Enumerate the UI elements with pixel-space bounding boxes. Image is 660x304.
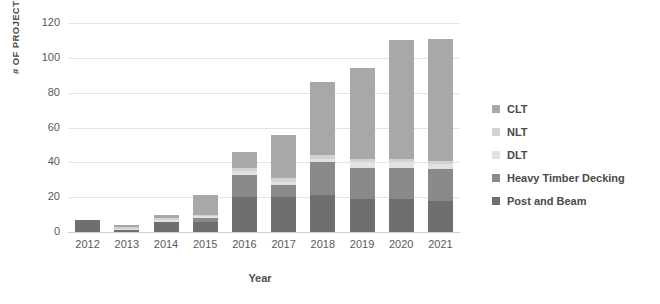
bar-group[interactable]: [107, 23, 146, 232]
legend-swatch-icon: [492, 105, 500, 113]
bar-segment-clt[interactable]: [428, 39, 453, 161]
bar-segment-heavy-timber-decking[interactable]: [428, 169, 453, 200]
bar-segment-clt[interactable]: [350, 68, 375, 159]
legend-swatch-icon: [492, 174, 500, 182]
bar-segment-post-and-beam[interactable]: [154, 222, 179, 232]
y-axis-tick-label: 60: [22, 121, 60, 133]
gridline: [68, 232, 460, 233]
bar-stack[interactable]: [232, 152, 257, 232]
x-axis-tick-label: 2014: [146, 238, 185, 250]
legend-item-nlt[interactable]: NLT: [492, 126, 625, 138]
bar-segment-clt[interactable]: [271, 135, 296, 179]
bar-segment-heavy-timber-decking[interactable]: [271, 185, 296, 197]
legend-item-heavy-timber-decking[interactable]: Heavy Timber Decking: [492, 172, 625, 184]
legend-swatch-icon: [492, 128, 500, 136]
x-axis-tick-label: 2016: [225, 238, 264, 250]
bar-group[interactable]: [382, 23, 421, 232]
bar-segment-post-and-beam[interactable]: [232, 197, 257, 232]
bar-stack[interactable]: [114, 225, 139, 232]
bar-stack[interactable]: [193, 195, 218, 232]
bar-stack[interactable]: [75, 220, 100, 232]
x-axis-tick-label: 2015: [186, 238, 225, 250]
x-axis-tick-label: 2013: [107, 238, 146, 250]
bar-group[interactable]: [146, 23, 185, 232]
bar-segment-clt[interactable]: [310, 82, 335, 155]
bar-segment-post-and-beam[interactable]: [75, 220, 100, 232]
bar-segment-clt[interactable]: [389, 40, 414, 158]
bar-segment-clt[interactable]: [232, 152, 257, 168]
bar-segment-post-and-beam[interactable]: [350, 199, 375, 232]
bar-segment-post-and-beam[interactable]: [428, 201, 453, 232]
bar-segment-post-and-beam[interactable]: [389, 199, 414, 232]
x-axis-title: Year: [60, 272, 460, 284]
bar-segment-heavy-timber-decking[interactable]: [350, 168, 375, 199]
bar-stack[interactable]: [350, 68, 375, 232]
legend-item-clt[interactable]: CLT: [492, 103, 625, 115]
y-axis-tick-label: 40: [22, 155, 60, 167]
legend-item-dlt[interactable]: DLT: [492, 149, 625, 161]
bar-stack[interactable]: [310, 82, 335, 232]
bar-stack[interactable]: [271, 135, 296, 232]
bar-segment-post-and-beam[interactable]: [114, 230, 139, 232]
y-axis-tick-label: 120: [22, 16, 60, 28]
bar-segment-heavy-timber-decking[interactable]: [389, 168, 414, 199]
bar-group[interactable]: [68, 23, 107, 232]
bar-series-container: [68, 23, 460, 232]
legend-swatch-icon: [492, 151, 500, 159]
bar-group[interactable]: [186, 23, 225, 232]
legend-item-label: NLT: [507, 126, 528, 138]
legend-item-label: Post and Beam: [507, 195, 586, 207]
y-axis-tick-label: 0: [22, 225, 60, 237]
bar-segment-post-and-beam[interactable]: [310, 195, 335, 232]
y-axis-title: # OF PROJECTS: [10, 0, 21, 94]
plot-area: 020406080100120: [68, 23, 460, 232]
y-axis-tick-label: 20: [22, 190, 60, 202]
stacked-bar-chart: # OF PROJECTS 020406080100120 2012201320…: [0, 0, 660, 304]
legend-item-label: CLT: [507, 103, 528, 115]
legend-swatch-icon: [492, 197, 500, 205]
y-axis-tick-label: 80: [22, 86, 60, 98]
x-axis-tick-label: 2012: [68, 238, 107, 250]
bar-stack[interactable]: [154, 215, 179, 232]
bar-group[interactable]: [303, 23, 342, 232]
bar-segment-clt[interactable]: [193, 195, 218, 214]
bar-segment-heavy-timber-decking[interactable]: [310, 162, 335, 195]
x-axis-tick-label: 2020: [382, 238, 421, 250]
bar-stack[interactable]: [428, 39, 453, 232]
bar-segment-post-and-beam[interactable]: [271, 197, 296, 232]
bar-segment-heavy-timber-decking[interactable]: [232, 175, 257, 198]
x-axis-tick-label: 2017: [264, 238, 303, 250]
y-axis-tick-label: 100: [22, 51, 60, 63]
chart-legend: CLTNLTDLTHeavy Timber DeckingPost and Be…: [492, 103, 625, 207]
x-axis-tick-label: 2018: [303, 238, 342, 250]
legend-item-label: DLT: [507, 149, 528, 161]
x-axis-tick-label: 2021: [421, 238, 460, 250]
bar-segment-post-and-beam[interactable]: [193, 222, 218, 232]
bar-stack[interactable]: [389, 40, 414, 232]
legend-item-post-and-beam[interactable]: Post and Beam: [492, 195, 625, 207]
bar-group[interactable]: [225, 23, 264, 232]
bar-group[interactable]: [421, 23, 460, 232]
legend-item-label: Heavy Timber Decking: [507, 172, 625, 184]
bar-group[interactable]: [342, 23, 381, 232]
bar-group[interactable]: [264, 23, 303, 232]
x-axis-tick-labels: 2012201320142015201620172018201920202021: [68, 238, 460, 250]
x-axis-tick-label: 2019: [342, 238, 381, 250]
